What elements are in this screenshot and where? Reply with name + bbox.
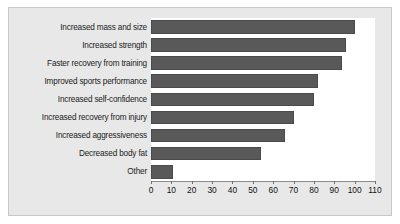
x-axis: 0102030405060708090100110	[151, 181, 375, 203]
x-axis-tick-mark	[253, 181, 254, 184]
bar-track	[151, 54, 375, 72]
bar-row: Other	[8, 163, 392, 181]
bar-track	[151, 36, 375, 54]
bar-row: Increased aggressiveness	[8, 127, 392, 145]
bar-category-label: Increased strength	[8, 41, 147, 50]
bar-row: Increased mass and size	[8, 18, 392, 36]
x-axis-tick-label: 70	[289, 185, 298, 195]
bar-track	[151, 145, 375, 163]
bar[interactable]	[151, 38, 346, 52]
x-axis-tick-mark	[151, 181, 152, 184]
bar-category-label: Faster recovery from training	[8, 59, 147, 68]
bar-row: Decreased body fat	[8, 145, 392, 163]
x-axis-tick-mark	[375, 181, 376, 184]
bar[interactable]	[151, 20, 355, 34]
x-axis-tick-mark	[212, 181, 213, 184]
bar-row: Increased strength	[8, 36, 392, 54]
bar[interactable]	[151, 93, 314, 107]
x-axis-tick-mark	[273, 181, 274, 184]
bar-category-label: Increased mass and size	[8, 23, 147, 32]
bar-category-label: Increased aggressiveness	[8, 131, 147, 140]
bar[interactable]	[151, 165, 173, 179]
bar-row: Improved sports performance	[8, 72, 392, 90]
bar-track	[151, 72, 375, 90]
bar-rows: Increased mass and sizeIncreased strengt…	[8, 18, 392, 181]
x-axis-tick-label: 100	[348, 185, 362, 195]
x-axis-tick-label: 90	[330, 185, 339, 195]
x-axis-tick-label: 10	[167, 185, 176, 195]
bar[interactable]	[151, 147, 261, 161]
bar-category-label: Other	[8, 167, 147, 176]
x-axis-tick-mark	[192, 181, 193, 184]
bar-category-label: Decreased body fat	[8, 149, 147, 158]
bar-row: Increased self-confidence	[8, 90, 392, 108]
x-axis-tick-label: 0	[149, 185, 154, 195]
x-axis-tick-mark	[171, 181, 172, 184]
bar-category-label: Increased recovery from injury	[8, 113, 147, 122]
x-axis-tick-mark	[334, 181, 335, 184]
x-axis-tick-mark	[294, 181, 295, 184]
x-axis-tick-label: 20	[187, 185, 196, 195]
x-axis-tick-label: 80	[309, 185, 318, 195]
x-axis-tick-mark	[355, 181, 356, 184]
bar-track	[151, 109, 375, 127]
x-axis-tick-mark	[232, 181, 233, 184]
x-axis-tick-label: 30	[207, 185, 216, 195]
bar[interactable]	[151, 74, 318, 88]
bar[interactable]	[151, 111, 294, 125]
x-axis-tick-label: 60	[269, 185, 278, 195]
bar-category-label: Improved sports performance	[8, 77, 147, 86]
bar-row: Increased recovery from injury	[8, 109, 392, 127]
bar-track	[151, 90, 375, 108]
bar-track	[151, 127, 375, 145]
chart-figure: Increased mass and sizeIncreased strengt…	[0, 0, 400, 224]
x-axis-tick-label: 40	[228, 185, 237, 195]
x-axis-tick-label: 110	[368, 185, 381, 195]
bar[interactable]	[151, 56, 342, 70]
bar-track	[151, 18, 375, 36]
x-axis-tick-mark	[314, 181, 315, 184]
bar-row: Faster recovery from training	[8, 54, 392, 72]
bar-category-label: Increased self-confidence	[8, 95, 147, 104]
bar[interactable]	[151, 129, 285, 143]
x-axis-tick-label: 50	[248, 185, 257, 195]
bar-track	[151, 163, 375, 181]
x-axis-line	[151, 181, 375, 182]
